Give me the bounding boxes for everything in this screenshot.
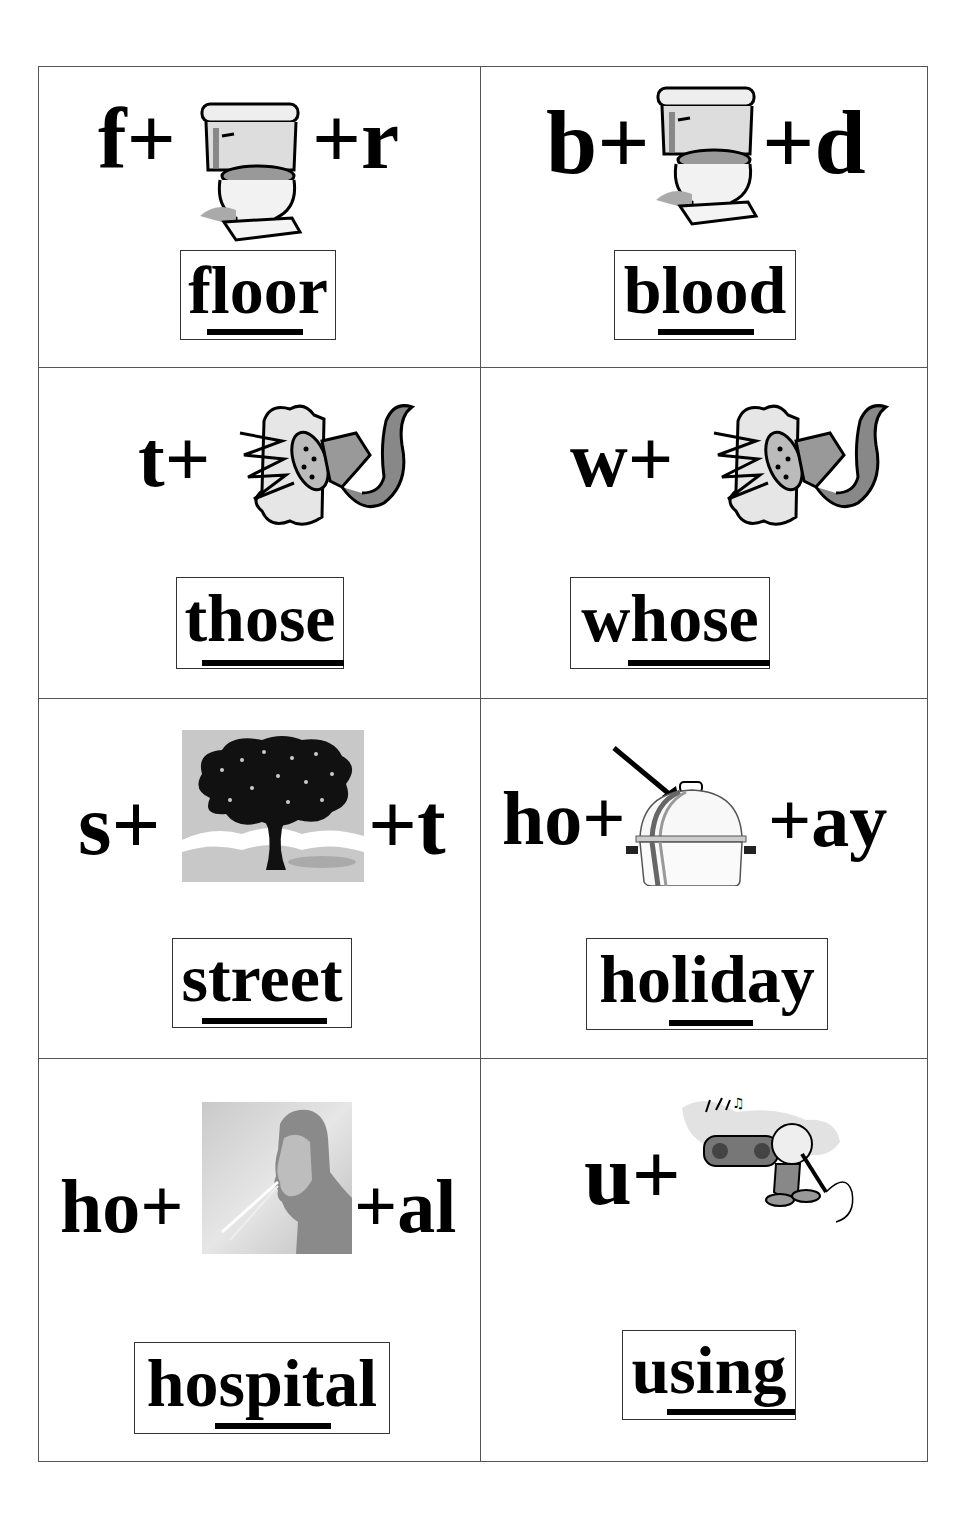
underline bbox=[215, 1423, 331, 1429]
singing-boy-icon: ♫ bbox=[676, 1092, 860, 1224]
underline bbox=[667, 1409, 795, 1415]
underline bbox=[628, 660, 770, 666]
hose-icon bbox=[234, 397, 424, 547]
answer-box: whose bbox=[570, 577, 770, 669]
prefix: b+ bbox=[546, 96, 650, 188]
answer-word: street bbox=[173, 944, 351, 1012]
prefix: s+ bbox=[78, 782, 160, 868]
card-floor: f+ +r floor bbox=[38, 66, 480, 366]
suffix: +r bbox=[312, 96, 399, 182]
answer-box: floor bbox=[180, 250, 336, 340]
answer-word: blood bbox=[615, 256, 795, 324]
card-those: t+ those bbox=[38, 367, 480, 698]
prefix: u+ bbox=[584, 1132, 681, 1218]
answer-word: those bbox=[177, 584, 343, 652]
prefix: ho+ bbox=[60, 1168, 184, 1244]
prefix: f+ bbox=[98, 96, 176, 182]
answer-box: street bbox=[172, 938, 352, 1028]
answer-word: floor bbox=[181, 256, 335, 324]
card-hospital: ho+ +al hospital bbox=[38, 1058, 480, 1462]
card-blood: b+ +d blood bbox=[480, 66, 928, 366]
card-holiday: ho+ +ay holiday bbox=[480, 698, 928, 1058]
card-using: u+ ♫ using bbox=[480, 1058, 928, 1462]
card-whose: w+ whose bbox=[480, 367, 928, 698]
tree-icon bbox=[182, 730, 364, 882]
answer-box: using bbox=[622, 1330, 796, 1420]
underline bbox=[207, 329, 303, 335]
answer-word: whose bbox=[571, 584, 769, 652]
suffix: +al bbox=[354, 1168, 456, 1244]
answer-box: blood bbox=[614, 250, 796, 340]
hose-icon bbox=[708, 397, 898, 547]
svg-text:♫: ♫ bbox=[732, 1095, 745, 1111]
lid-pot-icon bbox=[610, 746, 766, 886]
toilet-icon bbox=[652, 82, 764, 228]
underline bbox=[669, 1020, 753, 1026]
answer-box: holiday bbox=[586, 938, 828, 1030]
prefix: t+ bbox=[138, 419, 210, 499]
answer-word: using bbox=[623, 1336, 795, 1404]
prefix: ho+ bbox=[502, 780, 626, 856]
prefix: w+ bbox=[570, 419, 673, 499]
man-spitting-icon bbox=[202, 1102, 352, 1254]
underline bbox=[202, 1018, 327, 1024]
toilet-icon bbox=[196, 98, 308, 244]
card-street: s+ +t street bbox=[38, 698, 480, 1058]
answer-word: holiday bbox=[587, 945, 827, 1013]
suffix: +t bbox=[368, 782, 446, 868]
answer-box: those bbox=[176, 577, 344, 669]
suffix: +ay bbox=[768, 782, 887, 858]
answer-box: hospital bbox=[134, 1342, 390, 1434]
underline bbox=[202, 660, 344, 666]
underline bbox=[658, 329, 754, 335]
answer-word: hospital bbox=[135, 1349, 389, 1417]
suffix: +d bbox=[762, 96, 866, 188]
